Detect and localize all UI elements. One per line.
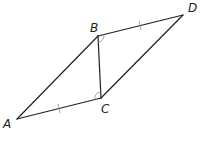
segment-BD (98, 15, 183, 36)
segment-AB (17, 36, 98, 119)
quadrilateral-diagram: A B C D (0, 0, 206, 141)
segment-BC (98, 36, 101, 98)
vertex-label-B: B (90, 21, 98, 35)
vertex-label-C: C (101, 102, 110, 116)
vertex-label-D: D (188, 1, 197, 15)
vertex-label-A: A (2, 117, 11, 131)
segment-CD (101, 15, 183, 98)
